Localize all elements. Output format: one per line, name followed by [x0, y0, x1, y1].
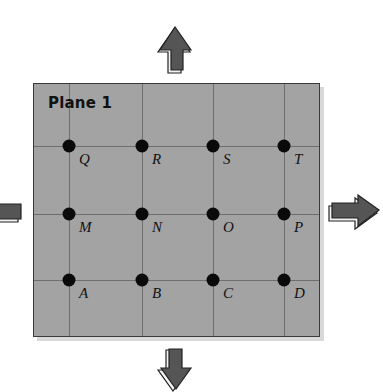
- point-t: [278, 140, 291, 153]
- point-c: [207, 274, 220, 287]
- arrow-up-icon: [155, 26, 193, 74]
- point-label: T: [294, 151, 302, 168]
- point-label: M: [79, 219, 92, 236]
- plane-1: Plane 1 QRSTMNOPABCD: [33, 83, 320, 337]
- point-label: B: [152, 285, 161, 302]
- point-a: [63, 274, 76, 287]
- point-label: R: [152, 151, 161, 168]
- point-label: S: [223, 151, 231, 168]
- point-label: C: [223, 285, 233, 302]
- point-label: Q: [79, 151, 90, 168]
- point-d: [278, 274, 291, 287]
- point-label: A: [79, 285, 88, 302]
- arrow-right-icon: [326, 194, 380, 232]
- arrow-down-icon: [155, 348, 193, 392]
- point-n: [136, 208, 149, 221]
- grid-line-horizontal: [34, 146, 319, 147]
- point-q: [63, 140, 76, 153]
- point-s: [207, 140, 220, 153]
- point-m: [63, 208, 76, 221]
- plane-title: Plane 1: [48, 94, 112, 112]
- grid-line-horizontal: [34, 214, 319, 215]
- point-p: [278, 208, 291, 221]
- point-label: O: [223, 219, 234, 236]
- grid-line-horizontal: [34, 280, 319, 281]
- point-label: P: [294, 219, 303, 236]
- point-o: [207, 208, 220, 221]
- point-r: [136, 140, 149, 153]
- point-label: N: [152, 219, 162, 236]
- point-b: [136, 274, 149, 287]
- arrow-left-icon: [0, 197, 26, 227]
- point-label: D: [294, 285, 305, 302]
